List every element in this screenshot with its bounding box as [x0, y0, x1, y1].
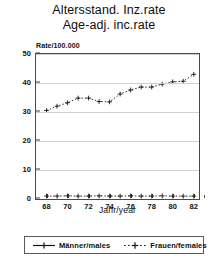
x-axis-tick-mark — [99, 195, 100, 198]
x-axis-tick-mark — [183, 195, 184, 198]
data-point-marker — [86, 96, 91, 101]
x-axis-tick-mark — [120, 195, 121, 198]
gridline — [36, 112, 199, 113]
legend-item-males: Männer/males — [33, 241, 110, 250]
data-point-marker — [65, 100, 70, 105]
legend-item-females: Frauen/females — [124, 241, 206, 250]
series-layer — [36, 54, 199, 199]
chart-legend: Männer/males Frauen/females — [24, 236, 204, 254]
gridline — [36, 141, 199, 142]
chart-title-line-english: Age-adj. inc.rate — [0, 18, 218, 33]
legend-label-males: Männer/males — [59, 241, 110, 250]
data-point-marker — [149, 85, 154, 90]
x-axis-tick-mark — [152, 194, 153, 198]
y-axis-tick-label: 0 — [9, 194, 31, 203]
data-point-marker — [55, 104, 60, 109]
chart-title: Altersstand. Inz.rate Age-adj. inc.rate — [0, 3, 218, 33]
data-point-marker — [118, 92, 123, 97]
legend-label-females: Frauen/females — [150, 241, 206, 250]
data-point-marker — [128, 88, 133, 93]
gridline — [36, 170, 199, 171]
legend-line-solid-icon — [33, 241, 55, 250]
x-axis-tick-mark — [194, 194, 195, 198]
data-point-marker — [191, 72, 196, 77]
x-axis-tick-mark — [47, 194, 48, 198]
plot-inner — [36, 54, 199, 199]
x-axis-tick-mark — [78, 195, 79, 198]
chart-plot-area: Rate/100.000 01020304050 687072747678808… — [0, 42, 218, 217]
legend-line-dotted-plus-icon — [124, 241, 146, 250]
plot-frame — [35, 53, 200, 200]
gridline — [36, 83, 199, 84]
y-axis-unit-label: Rate/100.000 — [36, 42, 80, 49]
x-axis-tick-mark — [131, 194, 132, 198]
chart-title-line-german: Altersstand. Inz.rate — [0, 3, 218, 18]
x-axis-tick-mark — [89, 194, 90, 198]
chart-screenshot: Altersstand. Inz.rate Age-adj. inc.rate … — [0, 0, 218, 258]
x-axis-tick-mark — [162, 195, 163, 198]
y-axis-tick-label: 40 — [9, 78, 31, 87]
x-axis-tick-mark — [68, 194, 69, 198]
y-axis-tick-label: 30 — [9, 107, 31, 116]
y-axis-tick-mark — [36, 82, 40, 83]
data-point-marker — [97, 99, 102, 104]
y-axis-tick-label: 10 — [9, 165, 31, 174]
x-axis-tick-mark — [173, 194, 174, 198]
x-axis-tick-mark — [110, 194, 111, 198]
data-point-marker — [139, 85, 144, 90]
gridline — [36, 54, 199, 55]
data-point-marker — [76, 96, 81, 101]
y-axis-tick-mark — [36, 140, 40, 141]
x-axis-tick-mark — [204, 195, 205, 198]
x-axis-title: Jahr/year — [35, 205, 200, 215]
y-axis-tick-mark — [36, 198, 40, 199]
x-axis-tick-mark — [57, 195, 58, 198]
y-axis-tick-mark — [36, 53, 40, 54]
y-axis-tick-label: 20 — [9, 136, 31, 145]
y-axis-tick-mark — [36, 111, 40, 112]
y-axis-tick-mark — [36, 169, 40, 170]
x-axis-tick-mark — [141, 195, 142, 198]
y-axis-tick-label: 50 — [9, 49, 31, 58]
